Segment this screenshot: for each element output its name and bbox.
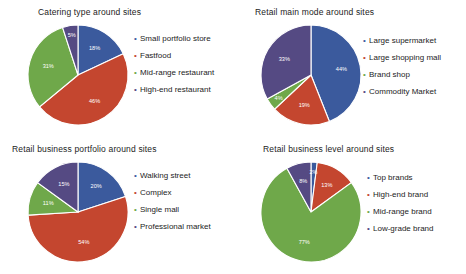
slice-value-label: 15% xyxy=(58,181,69,187)
slice-value-label: 31% xyxy=(43,63,54,69)
legend-item: •Small portfolio store xyxy=(134,30,232,47)
legend-item: •Top brands xyxy=(367,169,465,186)
pie-chart: 2%13%77%8% xyxy=(259,159,363,263)
panel-title: Retail main mode around sites xyxy=(255,7,374,17)
legend-item-label: Commodity Market xyxy=(369,83,436,100)
pie-svg: 44%19%4%33% xyxy=(259,22,363,126)
pie-panel-retail-business-level: Retail business level around sites 2%13%… xyxy=(233,137,466,274)
legend-item: •Professional market xyxy=(134,218,232,235)
slice-value-label: 77% xyxy=(299,239,310,245)
pie-panel-catering-type: Catering type around sites 18%46%31%5% •… xyxy=(0,0,233,137)
slice-value-label: 11% xyxy=(43,200,54,206)
legend-item-label: Large supermarket xyxy=(369,32,436,49)
legend: •Walking street•Complex•Single mall•Prof… xyxy=(134,167,232,235)
pie-svg: 18%46%31%5% xyxy=(26,22,130,126)
slice-value-label: 8% xyxy=(299,178,307,184)
pie-chart: 20%54%11%15% xyxy=(26,159,130,263)
slice-value-label: 33% xyxy=(279,56,290,62)
legend-item-label: Complex xyxy=(140,184,172,201)
pie-svg: 20%54%11%15% xyxy=(26,159,130,263)
slice-value-label: 5% xyxy=(68,32,76,38)
slice-value-label: 46% xyxy=(89,98,100,104)
legend-item: •Large supermarket xyxy=(363,32,461,49)
slice-value-label: 54% xyxy=(78,239,89,245)
slice-value-label: 2% xyxy=(309,169,317,175)
legend-item: •Walking street xyxy=(134,167,232,184)
legend-item-label: High-end restaurant xyxy=(140,81,211,98)
legend-item-label: Fastfood xyxy=(140,47,171,64)
legend-item: •Complex xyxy=(134,184,232,201)
legend-item-label: Brand shop xyxy=(369,66,410,83)
legend-item-label: Large shopping mall xyxy=(369,49,441,66)
panel-title: Catering type around sites xyxy=(38,7,141,17)
legend: •Small portfolio store•Fastfood•Mid-rang… xyxy=(134,30,232,98)
legend-item-label: High-end brand xyxy=(373,186,428,203)
legend-item: •High-end restaurant xyxy=(134,81,232,98)
legend-item: •Mid-range restaurant xyxy=(134,64,232,81)
slice-value-label: 19% xyxy=(299,102,310,108)
legend-item-label: Professional market xyxy=(140,218,211,235)
figure-canvas: Catering type around sites 18%46%31%5% •… xyxy=(0,0,466,274)
legend: •Large supermarket•Large shopping mall•B… xyxy=(363,32,461,100)
panel-title: Retail business level around sites xyxy=(263,144,394,154)
legend-item: •Commodity Market xyxy=(363,83,461,100)
slice-value-label: 44% xyxy=(336,66,347,72)
legend-item-label: Mid-range restaurant xyxy=(140,64,214,81)
pie-panel-retail-main-mode: Retail main mode around sites 44%19%4%33… xyxy=(233,0,466,137)
legend-item: •Low-grade brand xyxy=(367,220,465,237)
slice-value-label: 18% xyxy=(89,45,100,51)
legend-item: •Single mall xyxy=(134,201,232,218)
legend-item: •Large shopping mall xyxy=(363,49,461,66)
legend-item: •High-end brand xyxy=(367,186,465,203)
pie-chart: 44%19%4%33% xyxy=(259,22,363,126)
legend-item-label: Top brands xyxy=(373,169,413,186)
legend-item: •Fastfood xyxy=(134,47,232,64)
legend-item: •Mid-range brand xyxy=(367,203,465,220)
legend-item-label: Low-grade brand xyxy=(373,220,433,237)
slice-value-label: 20% xyxy=(91,183,102,189)
legend-item-label: Single mall xyxy=(140,201,179,218)
legend-item-label: Mid-range brand xyxy=(373,203,432,220)
pie-panel-retail-business-portfolio: Retail business portfolio around sites 2… xyxy=(0,137,233,274)
legend-item-label: Walking street xyxy=(140,167,190,184)
pie-chart: 18%46%31%5% xyxy=(26,22,130,126)
slice-value-label: 13% xyxy=(321,182,332,188)
panel-title: Retail business portfolio around sites xyxy=(12,144,157,154)
pie-svg: 2%13%77%8% xyxy=(259,159,363,263)
legend: •Top brands•High-end brand•Mid-range bra… xyxy=(367,169,465,237)
legend-item: •Brand shop xyxy=(363,66,461,83)
legend-item-label: Small portfolio store xyxy=(140,30,211,47)
slice-value-label: 4% xyxy=(275,95,283,101)
